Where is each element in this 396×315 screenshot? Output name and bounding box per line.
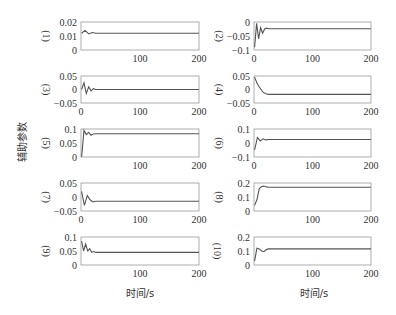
axes-frame: [81, 129, 199, 157]
y-tick-label: 0: [72, 260, 77, 271]
series-line: [82, 191, 199, 205]
y-tick-label: 0.1: [238, 124, 251, 135]
panel-label: (9): [40, 245, 52, 257]
axes-frame: [81, 237, 199, 265]
panel-label: (6): [213, 137, 225, 149]
y-tick-label: 0.2: [238, 232, 251, 243]
x-tick-label: 100: [133, 106, 148, 117]
series-line: [255, 186, 371, 205]
series-line: [255, 137, 371, 150]
panel-label: (7): [40, 191, 52, 203]
y-tick-label: 0: [245, 84, 250, 95]
x-tick-label: 100: [305, 268, 320, 279]
x-tick-label: 200: [364, 268, 379, 279]
axes-frame: [81, 183, 199, 211]
x-tick-label: 200: [192, 106, 207, 117]
x-tick-label: 0: [252, 160, 257, 171]
axes-frame: [254, 76, 371, 103]
y-tick-label: 0.05: [60, 246, 78, 257]
y-tick-label: 0.1: [238, 192, 251, 203]
x-tick-label: 100: [305, 106, 320, 117]
panels: 00.010.02100200(1)−0.1−0.0500100200(2)−0…: [40, 17, 379, 280]
panel-label: (3): [40, 84, 52, 96]
x-tick-label: 0: [79, 214, 84, 225]
y-tick-label: 0.05: [60, 138, 78, 149]
panel-1: 00.010.02100200(1): [40, 17, 207, 65]
x-tick-label: 200: [192, 53, 207, 64]
y-tick-label: 0.05: [233, 71, 251, 82]
x-tick-label: 200: [192, 160, 207, 171]
y-tick-label: −0.05: [227, 98, 250, 109]
panel-label: (2): [213, 30, 225, 42]
x-tick-label: 200: [192, 268, 207, 279]
axes-frame: [81, 22, 199, 50]
x-tick-label: 100: [305, 214, 320, 225]
panel-label: (5): [40, 137, 52, 149]
panel-5: 00.050.1100200(5): [40, 124, 207, 172]
x-tick-label: 100: [133, 214, 148, 225]
y-tick-label: 0.1: [65, 232, 78, 243]
y-axis-label: 辅助参数: [16, 122, 28, 162]
x-tick-label: 100: [305, 160, 320, 171]
panel-9: 00.050.1100200(9): [40, 232, 207, 280]
series-line: [255, 248, 371, 261]
panel-6: −0.100.10100200(6): [213, 124, 379, 172]
y-tick-label: −0.05: [54, 206, 77, 217]
series-line: [82, 83, 199, 94]
y-tick-label: 0.01: [60, 31, 78, 42]
series-line: [255, 23, 371, 47]
y-tick-label: −0.1: [232, 45, 250, 56]
panel-label: (10): [211, 243, 223, 260]
y-tick-label: 0.05: [60, 178, 78, 189]
panel-label: (8): [213, 191, 225, 203]
x-axis-label-right: 时间/s: [300, 287, 329, 299]
y-tick-label: 0.1: [238, 246, 251, 257]
x-tick-label: 100: [133, 53, 148, 64]
x-tick-label: 200: [364, 106, 379, 117]
y-tick-label: 0.05: [60, 71, 78, 82]
series-line: [82, 30, 199, 34]
x-tick-label: 0: [252, 106, 257, 117]
y-tick-label: 0: [245, 260, 250, 271]
panel-7: −0.0500.050100200(7): [40, 178, 207, 226]
x-tick-label: 100: [133, 160, 148, 171]
axes-frame: [254, 129, 371, 157]
x-tick-label: 200: [192, 214, 207, 225]
x-tick-label: 200: [364, 160, 379, 171]
series-line: [82, 130, 199, 157]
panel-4: −0.0500.050100200(4): [213, 71, 379, 118]
panel-2: −0.1−0.0500100200(2): [213, 17, 379, 65]
y-tick-label: 0: [245, 17, 250, 28]
y-tick-label: −0.1: [232, 152, 250, 163]
x-tick-label: 200: [364, 53, 379, 64]
x-tick-label: 0: [79, 106, 84, 117]
x-axis-label-left: 时间/s: [126, 287, 155, 299]
panel-10: 00.10.2100200(10): [211, 232, 379, 280]
x-tick-label: 200: [364, 214, 379, 225]
axes-frame: [254, 22, 371, 50]
y-tick-label: 0.02: [60, 17, 78, 28]
y-tick-label: −0.05: [54, 98, 77, 109]
chart: 辅助参数 时间/s 时间/s 00.010.02100200(1)−0.1−0.…: [0, 0, 396, 315]
panel-label: (1): [40, 30, 52, 42]
x-tick-label: 0: [252, 53, 257, 64]
y-tick-label: 0: [245, 206, 250, 217]
panel-8: 00.10.2100200(8): [213, 178, 379, 226]
panel-label: (4): [213, 84, 225, 96]
y-tick-label: 0: [72, 45, 77, 56]
x-tick-label: 100: [133, 268, 148, 279]
y-tick-label: −0.05: [227, 31, 250, 42]
y-tick-label: 0.2: [238, 178, 251, 189]
y-tick-label: 0: [245, 138, 250, 149]
x-tick-label: 100: [305, 53, 320, 64]
y-tick-label: 0.1: [65, 124, 78, 135]
axes-frame: [254, 237, 371, 265]
panel-3: −0.0500.050100200(3): [40, 71, 207, 118]
series-line: [255, 77, 371, 94]
series-line: [82, 241, 199, 252]
y-tick-label: 0: [72, 152, 77, 163]
y-tick-label: 0: [72, 84, 77, 95]
y-tick-label: 0: [72, 192, 77, 203]
